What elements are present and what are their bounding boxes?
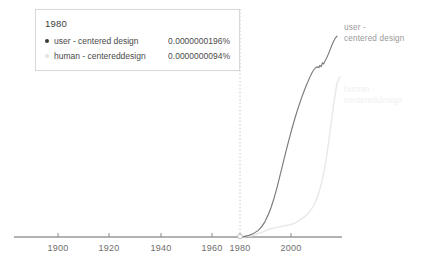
- x-tick-label-1900: 1900: [48, 243, 69, 253]
- series-end-label-human-centereddesign[interactable]: human - centereddesign: [344, 84, 402, 106]
- series-line-user-centered-design: [240, 36, 337, 237]
- series-end-label-user-centered-design[interactable]: user - centered design: [344, 22, 405, 44]
- x-tick-label-1960: 1960: [202, 243, 223, 253]
- x-tick-label-2000: 2000: [281, 243, 302, 253]
- series-dot-icon-human: [45, 54, 49, 58]
- tooltip-label-user: user - centered design: [54, 35, 158, 47]
- series-dot-icon-user: [45, 39, 49, 43]
- tooltip-row-user: user - centered design 0.0000000196%: [45, 35, 230, 47]
- x-tick-label-1980: 1980: [230, 243, 251, 253]
- hover-point-marker: [238, 234, 243, 239]
- ngram-chart-viewport: 1980 user - centered design 0.0000000196…: [0, 0, 426, 266]
- tooltip-label-human: human - centereddesign: [54, 50, 158, 62]
- tooltip-value-user: 0.0000000196%: [168, 35, 230, 47]
- series-line-human-centereddesign: [240, 77, 340, 237]
- x-tick-label-1940: 1940: [151, 243, 172, 253]
- tooltip-row-human: human - centereddesign 0.0000000094%: [45, 50, 230, 62]
- tooltip-value-human: 0.0000000094%: [168, 50, 230, 62]
- tooltip-year: 1980: [45, 17, 230, 31]
- x-tick-label-1920: 1920: [99, 243, 120, 253]
- hover-tooltip: 1980 user - centered design 0.0000000196…: [35, 9, 240, 71]
